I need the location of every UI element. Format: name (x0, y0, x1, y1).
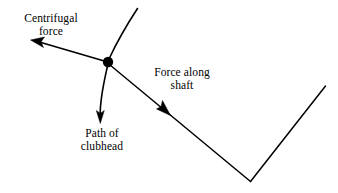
centrifugal-force-label-line2: force (8, 25, 94, 38)
path-of-clubhead-label-line1: Path of (62, 127, 142, 140)
centrifugal-force-label-line1: Centrifugal (8, 12, 94, 25)
force-along-shaft-arrowhead (157, 101, 171, 116)
path-of-clubhead-label-line2: clubhead (62, 140, 142, 153)
force-along-shaft-label-line1: Force along (140, 66, 224, 79)
force-along-shaft-label: Force along shaft (140, 66, 224, 91)
force-diagram: Centrifugal force Force along shaft Path… (0, 0, 338, 193)
path-of-clubhead-label: Path of clubhead (62, 127, 142, 152)
force-along-shaft-label-line2: shaft (140, 79, 224, 92)
clubhead-path-upper-curve (110, 9, 138, 59)
clubhead-path-lower-curve (100, 66, 107, 115)
club-head-arm-line (251, 86, 326, 182)
centrifugal-force-label: Centrifugal force (8, 12, 94, 37)
centrifugal-force-arrow-shaft (41, 43, 106, 62)
clubhead-dot (103, 57, 113, 67)
